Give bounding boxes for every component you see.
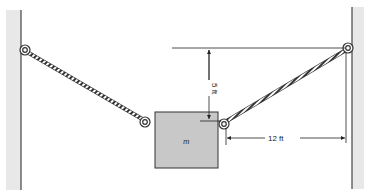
horizontal-dimension-label: 12 ft bbox=[268, 134, 284, 143]
right-wall bbox=[352, 7, 364, 189]
left-rope bbox=[27, 52, 144, 120]
diagram: m 5 ft 12 ft bbox=[0, 0, 365, 193]
mass-label: m bbox=[183, 136, 190, 146]
left-wall bbox=[6, 10, 21, 190]
right-rope bbox=[225, 50, 346, 122]
hanging-block: m bbox=[155, 112, 218, 168]
vertical-dimension-label: 5 ft bbox=[210, 83, 219, 95]
